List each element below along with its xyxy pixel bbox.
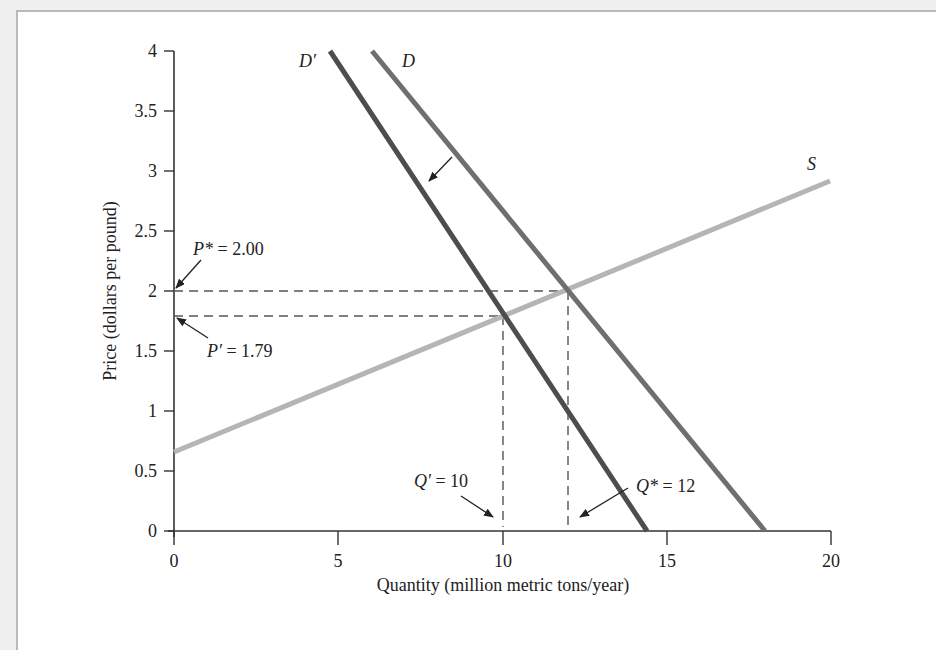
shift-arrow-icon — [429, 157, 452, 181]
x-axis-title: Quantity (million metric tons/year) — [377, 575, 629, 596]
y-tick-label: 3 — [148, 161, 157, 181]
p-prime-annotation: P′ = 1.79 — [206, 341, 273, 361]
p-star-annotation: P* = 2.00 — [192, 239, 264, 259]
x-tick-label: 15 — [658, 551, 676, 571]
q-star-annotation: Q* = 12 — [636, 476, 695, 496]
s-label: S — [807, 154, 816, 174]
p-prime-arrow-icon — [177, 318, 208, 338]
x-tick-label: 10 — [494, 551, 512, 571]
y-tick-label: 0.5 — [135, 461, 158, 481]
y-tick-label: 2.5 — [135, 221, 158, 241]
y-tick-label: 3.5 — [135, 101, 158, 121]
y-tick-label: 2 — [148, 281, 157, 301]
d-prime-label: D′ — [298, 51, 317, 71]
q-prime-annotation: Q′ = 10 — [414, 471, 468, 491]
y-axis-title: Price (dollars per pound) — [100, 201, 121, 380]
q-star-arrow-icon — [580, 488, 628, 517]
y-axis: 4 3.5 3 2.5 2 1.5 1 0.5 0 Price (dollars… — [100, 41, 174, 541]
x-tick-label: 20 — [822, 551, 840, 571]
x-axis: 0 5 10 15 20 Quantity (million metric to… — [168, 531, 840, 596]
p-star-arrow-icon — [176, 260, 201, 288]
y-tick-label: 4 — [148, 41, 157, 61]
y-tick-label: 1.5 — [135, 341, 158, 361]
y-tick-label: 0 — [148, 521, 157, 541]
q-prime-arrow-icon — [461, 496, 493, 517]
y-tick-label: 1 — [148, 401, 157, 421]
x-tick-label: 0 — [170, 551, 179, 571]
x-tick-label: 5 — [334, 551, 343, 571]
d-label: D — [401, 51, 415, 71]
